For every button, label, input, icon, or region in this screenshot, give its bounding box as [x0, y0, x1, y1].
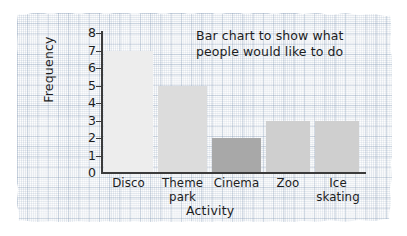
- chart-title: Bar chart to show what people would like…: [196, 28, 386, 59]
- x-label-cinema: Cinema: [209, 177, 264, 191]
- chart-title-line-1: Bar chart to show what: [196, 28, 386, 44]
- chart-title-line-2: people would like to do: [196, 44, 386, 60]
- bar-disco[interactable]: [104, 51, 153, 174]
- screenshot-root: Frequency Bar chart to show what people …: [0, 0, 407, 236]
- y-tick-label-3: 3: [76, 115, 96, 128]
- x-label-ice-skating-line-1: Ice: [311, 177, 365, 191]
- x-label-theme-park-line-2: park: [157, 191, 208, 205]
- x-axis-line: [101, 172, 366, 174]
- x-axis-title: Activity: [186, 203, 234, 218]
- y-axis-line: [101, 31, 103, 174]
- y-tick-label-4: 4: [76, 97, 96, 110]
- y-tick-label-7: 7: [76, 45, 96, 58]
- y-tick-label-0: 0: [76, 167, 96, 180]
- y-tick-label-5: 5: [76, 80, 96, 93]
- x-label-zoo: Zoo: [266, 177, 310, 191]
- x-label-ice-skating: Ice skating: [311, 177, 365, 204]
- bar-zoo[interactable]: [266, 121, 310, 174]
- x-label-disco: Disco: [104, 177, 153, 191]
- y-tick-label-6: 6: [76, 62, 96, 75]
- y-tick-label-1: 1: [76, 150, 96, 163]
- x-label-theme-park: Theme park: [157, 177, 208, 204]
- bar-ice-skating[interactable]: [315, 121, 359, 174]
- y-tick-label-8: 8: [76, 27, 96, 40]
- y-tick-label-2: 2: [76, 132, 96, 145]
- x-label-disco-line-1: Disco: [104, 177, 153, 191]
- y-axis-title: Frequency: [41, 20, 56, 120]
- x-label-zoo-line-1: Zoo: [266, 177, 310, 191]
- bar-theme-park[interactable]: [158, 86, 207, 174]
- bar-chart: Frequency Bar chart to show what people …: [0, 0, 407, 236]
- x-label-ice-skating-line-2: skating: [311, 191, 365, 205]
- x-label-theme-park-line-1: Theme: [157, 177, 208, 191]
- x-label-cinema-line-1: Cinema: [209, 177, 264, 191]
- bar-cinema[interactable]: [212, 138, 261, 173]
